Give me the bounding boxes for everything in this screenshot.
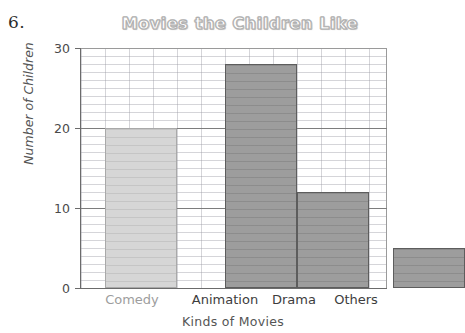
- bar-drama[interactable]: [297, 192, 369, 288]
- y-tick-label-30: 30: [44, 41, 70, 56]
- chart-title: Movies the Children Like: [95, 14, 385, 33]
- y-axis-title: Number of Children: [21, 24, 36, 184]
- x-tick-label-others: Others: [316, 292, 396, 307]
- bar-animation[interactable]: [225, 64, 297, 288]
- bar-others[interactable]: [393, 248, 465, 288]
- y-tick-label-10: 10: [44, 201, 70, 216]
- gridline-right: [386, 48, 387, 288]
- x-axis-title: Kinds of Movies: [80, 314, 386, 329]
- x-tick-label-comedy: Comedy: [84, 292, 180, 307]
- bar-comedy[interactable]: [105, 128, 177, 288]
- y-tick-label-0: 0: [44, 281, 70, 296]
- gridline-top: [81, 48, 387, 49]
- plot-area: [80, 48, 387, 289]
- y-tick-label-20: 20: [44, 121, 70, 136]
